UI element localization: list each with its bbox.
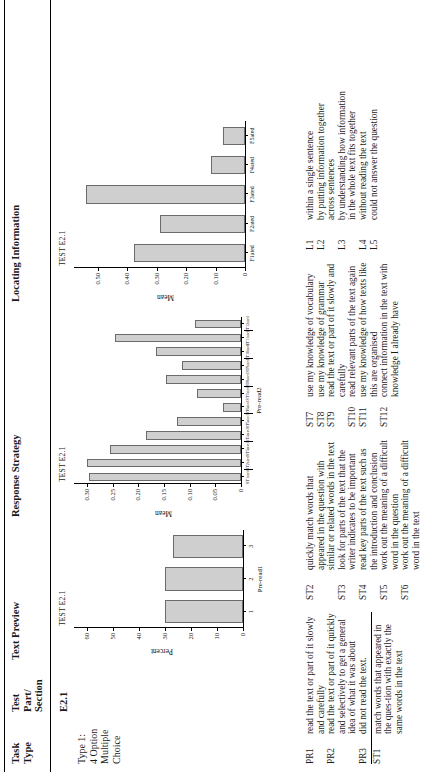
y-axis-tick <box>157 268 158 271</box>
column-header-test-part-section: Test Part/ Section <box>10 664 45 712</box>
y-axis-label: Mean <box>155 509 172 518</box>
legend-item: L4without reading the text <box>358 90 369 250</box>
legend-item-text: read the text or part of it slowly and c… <box>326 262 347 397</box>
legend-item-text: use my knowledge of vocabulary <box>305 262 316 397</box>
y-axis-tick <box>113 628 114 631</box>
legend-item-code: PR3 <box>358 736 369 764</box>
x-axis-tick <box>241 448 244 449</box>
legend-column-4: L1within a single sentenceL2by putting i… <box>305 90 379 250</box>
chart-title: TEST E2.1 <box>58 447 67 482</box>
bar <box>134 244 245 262</box>
legend-item-text: match words that appeared in the ques-ti… <box>373 612 405 734</box>
y-axis-tick <box>113 484 114 487</box>
legend-item-code: L1 <box>305 222 316 250</box>
bar <box>197 389 241 398</box>
legend-item-text: read relevant parts of the text again <box>347 262 358 397</box>
legend-item-code: L3 <box>337 222 348 250</box>
legend-item: ST6work out the meaning of a difficult w… <box>400 440 421 600</box>
x-axis-tick <box>243 578 246 579</box>
x-axis-label: Pre-read2 <box>255 317 262 484</box>
chart-text-preview: TEST E2.10102030405060Percent123Pre-read… <box>58 524 273 654</box>
legend-item: ST4read key parts of the text such as th… <box>358 440 379 600</box>
chart-response-strategy: TEST E2.100.050.100.150.200.250.30MeanST… <box>58 311 273 516</box>
legend-item: ST10read relevant parts of the text agai… <box>347 262 358 427</box>
x-axis-tick <box>241 406 244 407</box>
y-axis-tick-label: 0.10 <box>186 489 193 516</box>
legend-item-code: ST12 <box>379 399 390 427</box>
x-axis-tick-label: ST12ated <box>245 310 250 338</box>
x-axis-tick-label: F5ated <box>249 106 255 165</box>
y-axis-tick-label: 0.20 <box>182 273 189 300</box>
x-axis-tick <box>245 164 248 165</box>
y-axis-tick <box>241 484 242 487</box>
x-axis-label: Pre-read1 <box>256 530 263 628</box>
legend-item-text: work out the meaning of a difficult word… <box>400 440 421 570</box>
legend-item-code: ST10 <box>347 399 358 427</box>
legend-item: L1within a single sentence <box>305 90 316 250</box>
bar <box>87 459 241 468</box>
bar <box>223 127 245 145</box>
tick-group-separator <box>244 441 253 442</box>
figure-rotated-canvas: Task Type Test Part/ Section Text Previe… <box>0 0 444 772</box>
legend-item-text: use my knowledge of how texts like this … <box>358 262 379 397</box>
x-axis-tick <box>241 420 244 421</box>
y-axis-tick <box>98 268 99 271</box>
x-axis-tick <box>245 135 248 136</box>
bar <box>86 185 245 203</box>
legend-item: ST9read the text or part of it slowly an… <box>326 262 347 427</box>
legend-column-1: PR1read the text or part of it slowly an… <box>305 612 404 764</box>
y-axis-tick <box>216 268 217 271</box>
y-axis <box>74 267 245 268</box>
bar <box>160 215 246 233</box>
legend-item-text: without reading the text <box>358 90 369 220</box>
column-header-locating-information: Locating Information <box>10 152 22 302</box>
y-axis-tick <box>215 484 216 487</box>
y-axis-tick-label: 50 <box>109 633 116 654</box>
legend-item-code: L2 <box>316 222 327 250</box>
x-axis-tick <box>245 223 248 224</box>
legend-item-code: ST9 <box>326 399 337 427</box>
tick-group-separator <box>244 386 253 387</box>
legend-item-code: ST8 <box>316 399 327 427</box>
legend-item-text: by putting information together across s… <box>316 90 337 220</box>
legend-item-code: PR1 <box>305 736 316 764</box>
bar <box>165 600 243 624</box>
x-axis-tick <box>245 252 248 253</box>
y-axis-tick <box>127 268 128 271</box>
y-axis-tick-label: 40 <box>135 633 142 654</box>
bar <box>177 417 241 426</box>
y-axis-tick-label: 0.30 <box>83 489 90 516</box>
legend-item-text: read key parts of the text such as the i… <box>358 440 379 570</box>
y-axis-tick <box>191 628 192 631</box>
x-axis-tick <box>245 194 248 195</box>
y-axis-tick-label: 0.50 <box>94 273 101 300</box>
legend-item: ST5work out the meaning of a difficult w… <box>379 440 400 600</box>
legend-item-code: ST3 <box>337 572 348 600</box>
figure-sheet: Task Type Test Part/ Section Text Previe… <box>0 0 444 772</box>
tick-group-separator <box>244 358 253 359</box>
tick-group-separator <box>244 330 253 331</box>
bar <box>223 403 241 412</box>
legend-item-text: by understanding how information in the … <box>337 90 358 220</box>
y-axis-tick <box>245 268 246 271</box>
y-axis-tick-label: 0.25 <box>109 489 116 516</box>
legend-column-3: ST7use my knowledge of vocabularyST8use … <box>305 262 400 427</box>
legend-item: ST8use my knowledge of grammar <box>316 262 327 427</box>
x-axis-tick <box>241 351 244 352</box>
legend-item-text: use my knowledge of grammar <box>316 262 327 397</box>
y-axis-tick <box>87 628 88 631</box>
tick-group-separator <box>244 413 253 414</box>
y-axis-tick-label: 0.05 <box>211 489 218 516</box>
bar <box>211 156 245 174</box>
legend-item: PR2read the text or part of it quickly a… <box>326 612 358 764</box>
y-axis-tick <box>87 484 88 487</box>
y-axis-tick-label: 20 <box>187 633 194 654</box>
x-axis-tick <box>243 611 246 612</box>
legend-item: PR3did not read the text. <box>358 612 369 764</box>
legend-item-text: within a single sentence <box>305 90 316 220</box>
y-axis-label: Mean <box>157 293 174 302</box>
legend-item: ST11use my knowledge of how texts like t… <box>358 262 379 427</box>
legend-item-text: did not read the text. <box>358 612 369 734</box>
y-axis-tick-label: 0 <box>239 633 246 654</box>
bar <box>115 334 241 343</box>
